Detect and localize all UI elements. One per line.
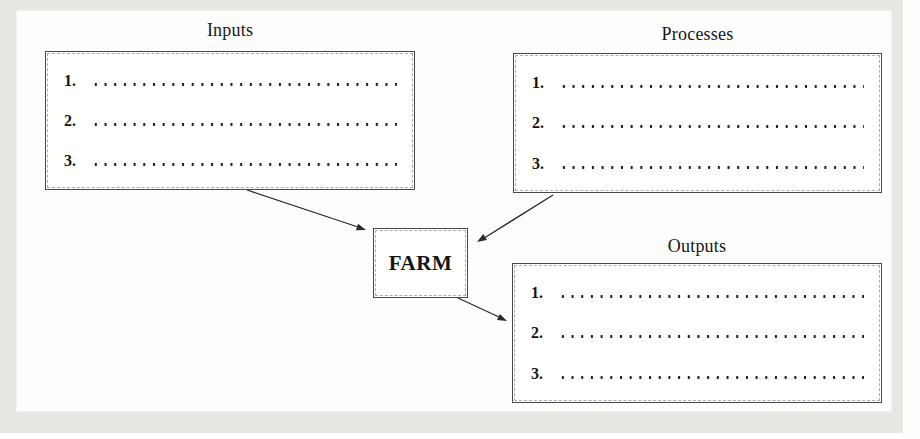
item-number: 1. <box>64 71 76 90</box>
answer-line <box>559 166 864 169</box>
list-item: 1. <box>64 71 400 90</box>
arrowhead-processes-to-farm <box>477 234 487 242</box>
item-number: 3. <box>64 151 76 170</box>
answer-line <box>558 295 864 298</box>
processes-box: 1. 2. 3. <box>513 53 882 193</box>
arrowhead-inputs-to-farm <box>356 224 366 231</box>
outputs-title: Outputs <box>512 236 882 257</box>
item-number: 1. <box>531 283 543 302</box>
list-item: 2. <box>531 323 867 342</box>
arrow-inputs-to-farm <box>247 190 358 227</box>
inputs-box: 1. 2. 3. <box>45 51 415 190</box>
arrowhead-farm-to-outputs <box>497 314 507 321</box>
list-item: 1. <box>532 73 867 92</box>
answer-line <box>91 123 397 126</box>
list-item: 1. <box>531 283 867 302</box>
item-number: 2. <box>531 323 543 342</box>
answer-line <box>559 85 864 88</box>
item-number: 1. <box>532 73 544 92</box>
list-item: 3. <box>532 154 867 173</box>
processes-title: Processes <box>513 24 882 45</box>
answer-line <box>91 163 397 166</box>
arrow-farm-to-outputs <box>458 298 499 317</box>
outputs-box: 1. 2. 3. <box>512 263 882 403</box>
item-number: 3. <box>531 364 543 383</box>
answer-line <box>559 125 864 128</box>
inputs-title: Inputs <box>45 20 415 41</box>
farm-label: FARM <box>389 251 452 276</box>
diagram-canvas: Inputs 1. 2. 3. Processes 1. 2. 3. Out <box>0 0 920 439</box>
answer-line <box>558 376 864 379</box>
item-number: 3. <box>532 154 544 173</box>
list-item: 2. <box>64 111 400 130</box>
list-item: 3. <box>531 364 867 383</box>
list-item: 2. <box>532 113 867 132</box>
answer-line <box>558 335 864 338</box>
farm-box: FARM <box>373 228 468 298</box>
item-number: 2. <box>64 111 76 130</box>
list-item: 3. <box>64 151 400 170</box>
answer-line <box>91 83 397 86</box>
item-number: 2. <box>532 113 544 132</box>
arrow-processes-to-farm <box>485 195 553 238</box>
